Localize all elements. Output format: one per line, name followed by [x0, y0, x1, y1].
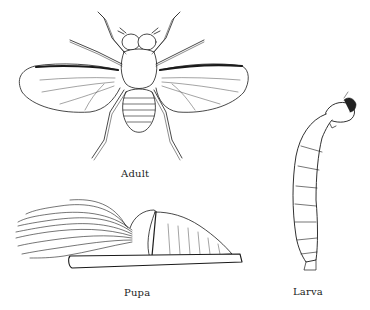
- pupa-label: Pupa: [124, 287, 150, 298]
- adult-fly-illustration: [19, 12, 248, 160]
- larva-label: Larva: [293, 286, 323, 297]
- adult-label: Adult: [121, 168, 149, 179]
- larva-illustration: [293, 92, 356, 270]
- life-stage-illustrations: [0, 0, 370, 310]
- pupa-illustration: [16, 200, 242, 268]
- life-cycle-figure: Adult Pupa Larva: [0, 0, 370, 310]
